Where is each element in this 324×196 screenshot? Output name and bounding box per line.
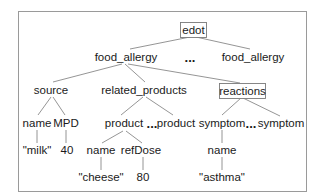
root-node: edot — [182, 24, 205, 36]
symptom-name-node: name — [208, 144, 237, 156]
edge-source-name — [38, 97, 51, 115]
edge-food_allergy-source — [53, 64, 122, 82]
mpd-value: 40 — [61, 144, 74, 156]
edge-edot-food_allergy-2 — [196, 37, 250, 49]
edge-reactions-symptom-2 — [243, 98, 280, 116]
edge-edot-food_allergy-1 — [130, 37, 190, 49]
product-name-node: name — [87, 144, 116, 156]
milk-value: "milk" — [23, 144, 52, 156]
food-allergy-node-1: food_allergy — [95, 51, 158, 63]
source-node: source — [34, 84, 69, 96]
symptom-node-1: symptom — [199, 117, 246, 129]
edge-product-name — [102, 131, 123, 143]
reactions-node: reactions — [219, 85, 266, 97]
edge-related_products-product-2 — [146, 97, 173, 115]
food-allergy-node-2: food_allergy — [222, 51, 285, 63]
ellipsis-product: ... — [147, 116, 158, 131]
related-products-node: related_products — [101, 84, 187, 96]
symptom-node-2: symptom — [258, 117, 305, 129]
edge-reactions-symptom-1 — [222, 98, 241, 115]
tree-diagram: edot food_allergy ... food_allergy sourc… — [0, 0, 324, 196]
source-mpd-node: MPD — [53, 117, 79, 129]
ellipsis-symptom: ... — [246, 116, 257, 131]
product-node-1: product — [105, 117, 144, 129]
edge-food_allergy-reactions — [128, 64, 240, 83]
product-refdose-node: refDose — [121, 144, 161, 156]
diagram-frame — [19, 12, 307, 192]
cheese-value: "cheese" — [78, 171, 123, 183]
edge-related_products-product-1 — [121, 97, 143, 115]
ellipsis-food-allergy: ... — [185, 50, 196, 65]
product-node-2: product — [157, 117, 196, 129]
asthma-value: "asthma" — [199, 171, 245, 183]
refdose-value: 80 — [137, 171, 150, 183]
edge-product-refdose — [126, 131, 142, 143]
edge-source-mpd — [53, 97, 65, 115]
source-name-node: name — [23, 117, 52, 129]
